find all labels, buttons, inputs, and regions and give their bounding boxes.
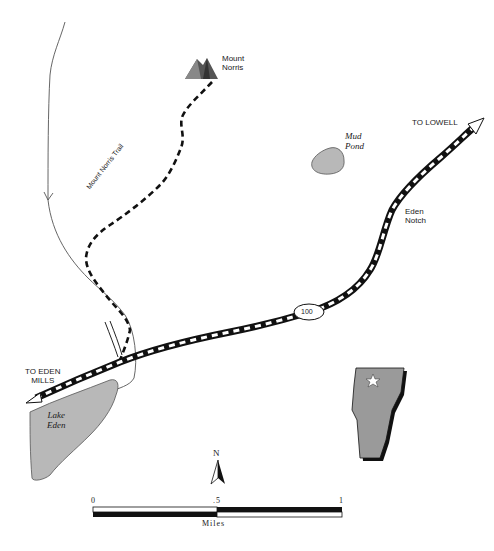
mud-pond — [312, 148, 344, 175]
scale-tick-half: .5 — [213, 497, 221, 506]
mud-pond-label: Mud Pond — [345, 131, 364, 151]
vermont-locator — [352, 368, 407, 461]
map: Mount Norris Mud Pond TO LOWELL Eden Not… — [0, 0, 494, 551]
stream-arrow-icon — [44, 192, 53, 200]
mountain-label: Mount Norris — [222, 55, 244, 73]
eden-mills-line2: MILLS — [25, 377, 60, 386]
north-label: N — [213, 448, 221, 458]
mountain-icon — [185, 58, 218, 79]
to-lowell-label: TO LOWELL — [412, 119, 458, 128]
to-eden-mills-label: TO EDEN MILLS — [25, 368, 60, 386]
lake-label-line2: Eden — [47, 420, 66, 430]
lake-eden-label: Lake Eden — [47, 410, 66, 430]
map-graphics — [0, 0, 494, 551]
scale-unit: Miles — [202, 520, 225, 529]
mountain-label-line2: Norris — [222, 64, 244, 73]
scale-bar — [93, 507, 342, 517]
north-arrow-icon — [211, 460, 225, 484]
route-number: 100 — [301, 308, 313, 316]
scale-tick-0: 0 — [91, 497, 96, 506]
pond-label-line2: Pond — [345, 141, 364, 151]
pond-label-line1: Mud — [345, 131, 364, 141]
scale-tick-1: 1 — [339, 497, 344, 506]
west-arrow-icon — [26, 393, 42, 403]
stream — [48, 22, 136, 392]
lake-label-line1: Lake — [47, 410, 66, 420]
mount-norris-trail — [86, 82, 212, 360]
eden-notch-label: Eden Notch — [405, 208, 426, 226]
bridge — [105, 321, 122, 357]
notch-label-line2: Notch — [405, 217, 426, 226]
